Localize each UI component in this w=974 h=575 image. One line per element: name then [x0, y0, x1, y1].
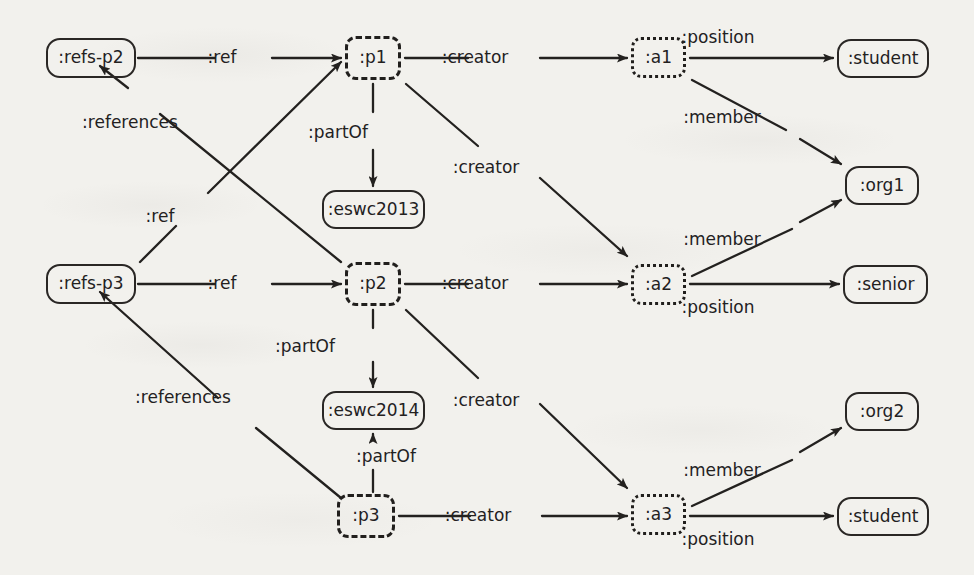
- node-org1[interactable]: :org1: [845, 166, 919, 205]
- edge-label-ref: :ref: [208, 47, 237, 67]
- edge-label-position: :position: [681, 529, 754, 549]
- edge-label-ref: :ref: [146, 206, 175, 226]
- node-p3[interactable]: :p3: [337, 494, 395, 538]
- edge-e15: [100, 292, 218, 398]
- node-label: :eswc2013: [328, 199, 420, 219]
- node-refs-p3[interactable]: :refs-p3: [46, 264, 136, 304]
- node-label: :refs-p2: [58, 47, 123, 67]
- edge-label-creator: :creator: [442, 47, 509, 67]
- edge-e18: [800, 428, 841, 452]
- edge-label-member: :member: [683, 229, 761, 249]
- edge-e8: [140, 226, 176, 262]
- edge-e14: [540, 404, 627, 488]
- node-org2[interactable]: :org2: [845, 392, 919, 431]
- edge-label-partof: :partOf: [275, 336, 335, 356]
- node-label: :a1: [645, 47, 672, 67]
- node-student-2[interactable]: :student: [837, 497, 929, 536]
- edge-e6: [406, 84, 478, 146]
- node-refs-p2[interactable]: :refs-p2: [46, 38, 136, 78]
- node-label: :a3: [645, 504, 672, 524]
- node-a2[interactable]: :a2: [631, 264, 686, 305]
- edge-label-ref: :ref: [208, 273, 237, 293]
- edge-label-partof: :partOf: [308, 122, 368, 142]
- node-p1[interactable]: :p1: [345, 36, 401, 80]
- node-label: :eswc2014: [328, 400, 420, 420]
- node-senior[interactable]: :senior: [843, 265, 928, 304]
- edge-e6: [540, 178, 627, 256]
- edge-label-creator: :creator: [453, 157, 520, 177]
- edge-e4: [800, 139, 841, 164]
- edge-label-references: :references: [82, 112, 178, 132]
- node-a1[interactable]: :a1: [631, 37, 686, 78]
- edge-e15: [256, 428, 341, 498]
- node-label: :p2: [359, 273, 386, 293]
- node-student-1[interactable]: :student: [837, 39, 929, 78]
- edge-label-position: :position: [681, 27, 754, 47]
- node-label: :student: [848, 506, 919, 526]
- edge-label-position: :position: [681, 297, 754, 317]
- diagram-canvas: :refs-p2 :p1 :a1 :student :eswc2013 :org…: [0, 0, 974, 575]
- node-a3[interactable]: :a3: [631, 494, 686, 535]
- edge-label-creator: :creator: [442, 273, 509, 293]
- node-label: :org2: [860, 401, 904, 421]
- edge-label-member: :member: [683, 107, 761, 127]
- edge-e11: [800, 200, 841, 222]
- node-p2[interactable]: :p2: [345, 262, 401, 306]
- node-label: :p1: [359, 47, 386, 67]
- edge-e14: [406, 310, 478, 378]
- node-label: :student: [848, 48, 919, 68]
- node-eswc2013[interactable]: :eswc2013: [322, 190, 425, 229]
- node-label: :refs-p3: [58, 273, 123, 293]
- node-label: :org1: [860, 175, 904, 195]
- node-label: :senior: [857, 274, 915, 294]
- edge-label-member: :member: [683, 460, 761, 480]
- edge-label-partof: :partOf: [356, 446, 416, 466]
- node-label: :p3: [352, 505, 379, 525]
- node-label: :a2: [645, 274, 672, 294]
- edge-label-creator: :creator: [453, 390, 520, 410]
- node-eswc2014[interactable]: :eswc2014: [322, 391, 425, 430]
- edge-label-references: :references: [135, 387, 231, 407]
- edge-label-creator: :creator: [445, 505, 512, 525]
